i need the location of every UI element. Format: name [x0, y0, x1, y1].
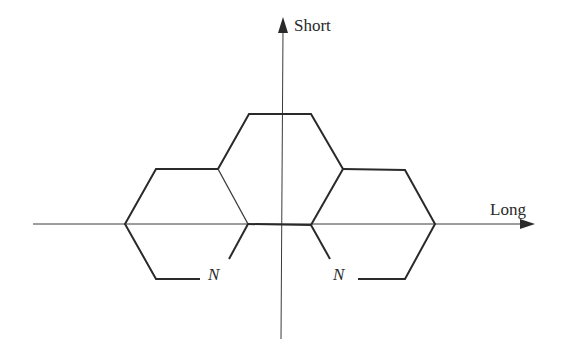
nitrogen-atom-right: N [333, 266, 344, 283]
long-axis-label: Long [490, 201, 526, 218]
nitrogen-atom-left: N [208, 266, 219, 283]
short-axis-arrow-icon [278, 17, 288, 33]
molecular-axes-diagram [0, 0, 564, 341]
short-axis-label: Short [294, 17, 331, 34]
short-axis [278, 17, 288, 339]
long-axis-arrow-icon [520, 219, 535, 229]
center-ring [218, 114, 343, 225]
